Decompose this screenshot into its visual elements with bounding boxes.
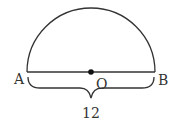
- semicircle-diagram: A B O 12: [0, 0, 179, 128]
- length-brace: [28, 77, 154, 98]
- diameter-length-label: 12: [82, 105, 100, 121]
- center-point: [88, 69, 94, 75]
- label-b: B: [158, 72, 168, 88]
- semicircle-arc: [27, 8, 155, 72]
- label-a: A: [13, 71, 25, 87]
- label-o: O: [96, 76, 107, 92]
